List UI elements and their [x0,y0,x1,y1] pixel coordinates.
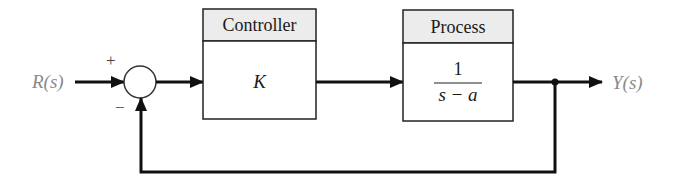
process-denominator: s − a [438,84,477,105]
summing-junction [124,66,156,98]
controller-gain: K [252,71,267,92]
process-block: Process 1 s − a [403,10,513,121]
block-diagram: R(s) + − Controller K Process 1 s − a Y(… [0,0,676,189]
minus-sign: − [115,98,125,117]
controller-title: Controller [223,15,297,35]
process-numerator: 1 [454,59,463,79]
controller-block: Controller K [203,9,316,119]
process-title: Process [431,17,486,37]
input-label-r-of-s: R(s) [31,71,64,93]
output-label-y-of-s: Y(s) [612,72,643,94]
plus-sign: + [106,51,116,70]
process-body [403,43,513,121]
